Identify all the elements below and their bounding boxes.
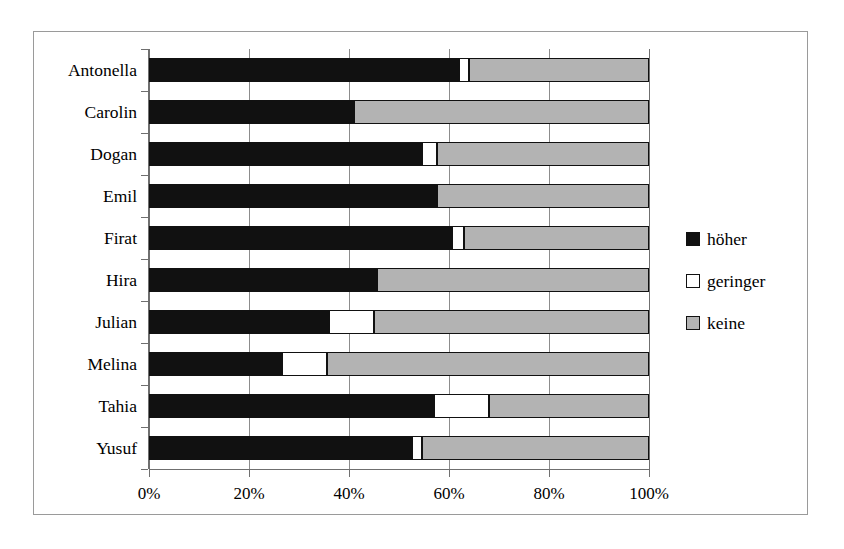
y-axis-tick [141,217,148,218]
legend-item[interactable]: höher [686,218,806,260]
bar-segment-keine[interactable] [422,436,650,460]
bar-segment-höher[interactable] [149,352,282,376]
bar-segment-geringer[interactable] [282,352,327,376]
stacked-bar[interactable] [149,100,649,124]
stacked-bar[interactable] [149,352,649,376]
bar-segment-höher[interactable] [149,310,329,334]
bar-segment-keine[interactable] [377,268,650,292]
bar-segment-keine[interactable] [437,142,650,166]
legend-label: höher [707,229,747,250]
bar-segment-keine[interactable] [464,226,649,250]
bar-segment-höher[interactable] [149,142,422,166]
legend-item[interactable]: geringer [686,260,806,302]
bar-row[interactable] [149,385,649,427]
bar-segment-keine[interactable] [374,310,649,334]
y-axis-label: Hira [0,259,137,301]
y-axis-label: Antonella [0,49,137,91]
y-axis-label: Julian [0,301,137,343]
y-axis-tick [141,343,148,344]
y-axis-label: Melina [0,343,137,385]
y-axis-label: Carolin [0,91,137,133]
x-axis-tick [449,469,450,477]
bar-segment-höher[interactable] [149,268,377,292]
y-axis-label: Tahia [0,385,137,427]
legend-label: geringer [707,271,765,292]
stacked-bar[interactable] [149,394,649,418]
bar-segment-keine[interactable] [354,100,649,124]
bar-row[interactable] [149,49,649,91]
legend-swatch-icon [686,316,700,330]
x-axis-tick-label: 100% [604,484,694,504]
x-axis-tick-label: 0% [104,484,194,504]
x-axis-tick [549,469,550,477]
chart-frame: höhergeringerkeine AntonellaCarolinDogan… [33,31,808,515]
x-axis-tick-label: 60% [404,484,494,504]
y-axis-label: Firat [0,217,137,259]
bar-segment-geringer[interactable] [434,394,489,418]
y-axis-tick [141,301,148,302]
stacked-bar[interactable] [149,268,649,292]
bar-segment-geringer[interactable] [329,310,374,334]
bar-segment-geringer[interactable] [452,226,465,250]
legend-label: keine [707,313,745,334]
y-axis-tick [141,91,148,92]
bar-row[interactable] [149,217,649,259]
stacked-bar[interactable] [149,436,649,460]
bar-row[interactable] [149,133,649,175]
bar-row[interactable] [149,301,649,343]
y-axis-label: Yusuf [0,427,137,469]
bar-segment-höher[interactable] [149,100,354,124]
bar-segment-höher[interactable] [149,226,452,250]
y-axis [148,49,149,469]
x-axis-tick [349,469,350,477]
stacked-bar[interactable] [149,58,649,82]
chart-legend: höhergeringerkeine [686,218,806,344]
y-axis-label: Dogan [0,133,137,175]
bar-segment-geringer[interactable] [412,436,422,460]
y-axis-tick [141,385,148,386]
y-axis-tick [141,49,148,50]
bar-segment-geringer[interactable] [459,58,469,82]
x-gridline [649,49,650,469]
stacked-bar[interactable] [149,310,649,334]
y-axis-label: Emil [0,175,137,217]
x-axis-tick-label: 80% [504,484,594,504]
stacked-bar[interactable] [149,184,649,208]
x-axis-tick [249,469,250,477]
bar-segment-keine[interactable] [437,184,650,208]
bar-row[interactable] [149,427,649,469]
x-axis [149,469,649,470]
stacked-bar[interactable] [149,142,649,166]
legend-swatch-icon [686,232,700,246]
plot-area [149,49,649,469]
y-axis-tick [141,469,148,470]
y-axis-tick [141,427,148,428]
bar-segment-geringer[interactable] [422,142,437,166]
legend-item[interactable]: keine [686,302,806,344]
bar-segment-keine[interactable] [469,58,649,82]
bar-segment-höher[interactable] [149,58,459,82]
bar-segment-keine[interactable] [489,394,649,418]
bar-row[interactable] [149,91,649,133]
x-axis-tick-label: 20% [204,484,294,504]
x-axis-tick [649,469,650,477]
legend-swatch-icon [686,274,700,288]
bar-segment-höher[interactable] [149,394,434,418]
bar-row[interactable] [149,343,649,385]
bar-segment-höher[interactable] [149,184,437,208]
x-axis-tick [149,469,150,477]
x-axis-tick-label: 40% [304,484,394,504]
bar-segment-keine[interactable] [327,352,650,376]
bar-row[interactable] [149,259,649,301]
bar-row[interactable] [149,175,649,217]
y-axis-tick [141,259,148,260]
bar-segment-höher[interactable] [149,436,412,460]
y-axis-tick [141,175,148,176]
y-axis-tick [141,133,148,134]
stacked-bar[interactable] [149,226,649,250]
